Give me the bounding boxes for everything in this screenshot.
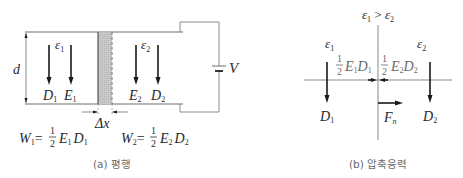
arrow-down-icon [325,95,330,103]
arrow-left-icon [379,78,385,82]
e2-label: E2 [128,88,142,104]
region-1: ε1 D1 E1 [42,37,77,104]
epsilon-2-label: ε2 [141,37,150,54]
panel-a-parallel: d V ε1 D1 E1 ε2 E2 D2 [13,22,240,170]
diagram-canvas: d V ε1 D1 E1 ε2 E2 D2 [0,0,463,178]
dimension-label: d [13,62,21,77]
d2-label: D2 [150,88,165,104]
d1-label: D1 [42,88,57,104]
e2d2-term: E2D2 [390,59,418,75]
arrow-right-icon [395,101,403,106]
arrow-right-icon [371,78,377,82]
frac-den: 2 [382,66,387,77]
e1-label: E1 [63,88,77,104]
epsilon-1-label: ε1 [55,37,64,54]
frac-num: 1 [382,53,387,64]
arrow-up-icon [25,33,28,38]
arrow-down-icon [428,95,433,103]
arrow-down-icon [47,77,52,85]
w1-frac-den: 2 [50,138,55,149]
arrow-down-icon [134,77,139,85]
w2-lhs: W2= [121,131,145,147]
arrow-down-icon [69,77,74,85]
boundary-shaded-region [98,32,112,104]
panel-b-compressive-stress: ε1 > ε2 ε1 D1 1 2 E1D1 ε2 D2 1 2 E2D2 [304,7,452,170]
w2-frac-den: 2 [151,138,156,149]
epsilon-2-label: ε2 [417,36,426,53]
w1-frac-num: 1 [50,125,55,136]
energy-formula-w2: W2= 1 2 E2D2 [121,125,189,149]
d2-label: D2 [422,109,437,125]
epsilon-1-label: ε1 [325,36,334,53]
delta-x-label: Δx [94,116,110,131]
right-pressure-formula: 1 2 E2D2 [381,53,418,77]
arrow-down-icon [156,77,161,85]
w1-lhs: W1= [19,131,43,147]
caption-a: (a) 평행 [93,158,131,170]
caption-b: (b) 압축응력 [349,158,407,170]
e1d1-term: E1D1 [344,59,372,75]
permittivity-condition: ε1 > ε2 [362,7,394,24]
d1-label: D1 [319,109,334,125]
w1-rhs: E1D1 [58,131,88,147]
circuit-wire-top [180,22,219,66]
energy-formula-w1: W1= 1 2 E1D1 [19,125,88,149]
frac-num: 1 [337,53,342,64]
arrow-down-icon [25,98,28,103]
force-label: Fn [383,110,397,126]
frac-den: 2 [337,66,342,77]
arrow-right-icon [93,111,98,114]
left-pressure-formula: 1 2 E1D1 [336,53,372,77]
delta-x-dimension: Δx [82,104,128,131]
w2-rhs: E2D2 [159,131,189,147]
battery-circuit: V [180,22,240,112]
w2-frac-num: 1 [151,125,156,136]
arrow-left-icon [112,111,117,114]
voltage-label: V [229,60,240,76]
region-2: ε2 E2 D2 [128,37,165,104]
circuit-wire-bottom [180,71,219,112]
dimension-d: d [13,33,28,103]
